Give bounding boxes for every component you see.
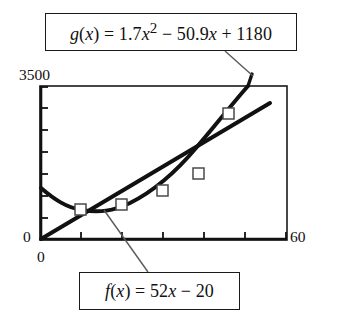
callout-quadratic: g(x) = 1.7x2 − 50.9x + 1180 — [45, 13, 297, 51]
quadratic-fn-name: g — [70, 24, 79, 44]
quadratic-formula-text: g(x) = 1.7x2 − 50.9x + 1180 — [70, 20, 272, 45]
quadratic-constant: 1180 — [236, 24, 272, 44]
quadratic-curve-extension — [248, 74, 252, 86]
figure-container: 3500 0 0 60 g(x) = 1.7x2 − 50.9x + 1180 … — [0, 0, 347, 329]
data-point-marker — [193, 168, 204, 179]
y-axis-zero-label: 0 — [23, 228, 31, 246]
leader-line-quadratic — [225, 51, 253, 76]
linear-equals: = — [131, 281, 150, 301]
data-point-marker — [223, 108, 234, 119]
quadratic-plus: + — [217, 24, 236, 44]
linear-intercept: 20 — [196, 281, 214, 301]
y-axis-max-label: 3500 — [19, 66, 50, 84]
data-point-marker — [157, 185, 168, 196]
quadratic-equals: = — [99, 24, 118, 44]
linear-slope: 52 — [150, 281, 168, 301]
data-point-marker — [75, 204, 86, 215]
linear-formula-text: f(x) = 52x − 20 — [105, 281, 214, 302]
x-axis-max-label: 60 — [290, 228, 306, 246]
x-axis-zero-label: 0 — [37, 248, 45, 266]
quadratic-coefficient-a: 1.7 — [119, 24, 142, 44]
data-point-marker — [116, 199, 127, 210]
callout-linear: f(x) = 52x − 20 — [79, 272, 240, 310]
quadratic-minus: − — [157, 24, 176, 44]
linear-minus: − — [176, 281, 195, 301]
quadratic-var-squared: x — [142, 24, 150, 44]
quadratic-coefficient-b: 50.9 — [177, 24, 209, 44]
quadratic-var-linear: x — [209, 24, 217, 44]
